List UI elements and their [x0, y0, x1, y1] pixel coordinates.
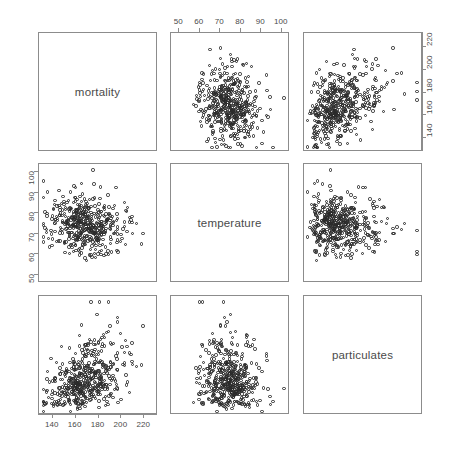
data-point — [242, 386, 245, 389]
data-point — [225, 407, 228, 410]
data-point — [119, 233, 122, 236]
data-point — [339, 103, 342, 106]
axis-tick-label: 140 — [45, 420, 59, 429]
data-point — [386, 81, 389, 84]
data-point — [84, 355, 87, 358]
data-point — [229, 331, 232, 334]
data-point — [213, 120, 216, 123]
data-point — [64, 375, 67, 378]
data-point — [325, 200, 328, 203]
data-point — [230, 65, 233, 68]
data-point — [237, 388, 240, 391]
data-point — [68, 376, 71, 379]
data-point — [391, 232, 394, 235]
data-point — [224, 144, 227, 147]
data-point — [354, 65, 357, 68]
data-point — [219, 127, 222, 130]
data-point — [356, 57, 359, 60]
data-point — [346, 142, 349, 145]
data-point — [110, 343, 113, 346]
data-point — [61, 378, 64, 381]
data-point — [371, 109, 374, 112]
data-point — [334, 111, 337, 114]
scatter-panel-temperature-vs-particulates — [303, 163, 422, 282]
data-point — [46, 190, 49, 193]
data-point — [201, 344, 204, 347]
data-point — [131, 232, 134, 235]
data-point — [210, 357, 213, 360]
data-point — [320, 76, 323, 79]
data-point — [115, 212, 118, 215]
data-point — [219, 57, 222, 60]
data-point — [98, 300, 101, 303]
data-point — [210, 370, 213, 373]
data-point — [208, 48, 211, 51]
data-point — [77, 363, 80, 366]
data-point — [42, 240, 45, 243]
data-point — [83, 366, 86, 369]
axis-tick-label: 90 — [256, 17, 265, 26]
axis-tick — [422, 114, 426, 115]
data-point — [210, 401, 213, 404]
data-point — [219, 343, 222, 346]
data-point — [128, 351, 131, 354]
data-point — [80, 323, 83, 326]
data-point — [238, 384, 241, 387]
data-point — [211, 133, 214, 136]
data-point — [62, 403, 65, 406]
data-point — [353, 230, 356, 233]
data-point — [57, 189, 60, 192]
data-point — [247, 344, 250, 347]
data-point — [317, 192, 320, 195]
data-point — [392, 108, 395, 111]
data-point — [199, 376, 202, 379]
data-point — [368, 197, 371, 200]
data-point — [265, 89, 268, 92]
axis-tick-label: 60 — [27, 253, 36, 262]
data-point — [271, 400, 274, 403]
data-point — [97, 340, 100, 343]
data-point — [83, 405, 86, 408]
data-point — [248, 90, 251, 93]
data-point — [116, 401, 119, 404]
data-point — [124, 339, 127, 342]
data-point — [220, 121, 223, 124]
data-point — [42, 410, 45, 413]
data-point — [269, 403, 272, 406]
data-point — [141, 232, 144, 235]
data-point — [318, 253, 321, 256]
data-point — [395, 72, 398, 75]
data-point — [125, 345, 128, 348]
data-point — [67, 199, 70, 202]
scatter-panel-particulates-vs-temperature — [170, 295, 289, 414]
data-point — [356, 215, 359, 218]
data-point — [45, 389, 48, 392]
data-point — [391, 46, 394, 49]
data-point — [108, 324, 111, 327]
data-point — [194, 104, 197, 107]
data-point — [338, 142, 341, 145]
data-point — [266, 387, 269, 390]
data-point — [344, 82, 347, 85]
axis-tick — [178, 28, 179, 32]
data-point — [46, 370, 49, 373]
data-point — [120, 345, 123, 348]
axis-tick-label: 200 — [114, 420, 128, 429]
data-point — [349, 193, 352, 196]
data-point — [42, 196, 45, 199]
data-point — [353, 196, 356, 199]
data-point — [238, 72, 241, 75]
data-point — [125, 383, 128, 386]
data-point — [239, 107, 242, 110]
data-point — [93, 226, 96, 229]
data-point — [372, 215, 375, 218]
data-point — [224, 83, 227, 86]
data-point — [250, 65, 253, 68]
data-point — [356, 94, 359, 97]
data-point — [95, 313, 98, 316]
data-point — [400, 71, 403, 74]
data-point — [314, 230, 317, 233]
data-point — [78, 334, 81, 337]
data-point — [309, 220, 312, 223]
data-point — [325, 117, 328, 120]
